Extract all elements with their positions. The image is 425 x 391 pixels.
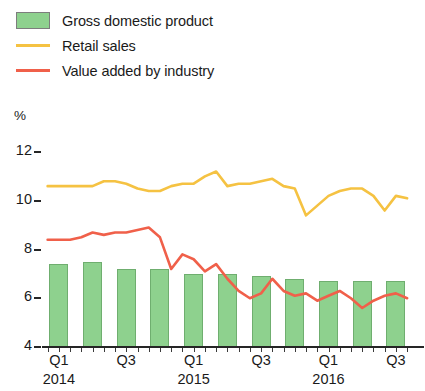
x-axis-year-label: 2014 [29, 371, 89, 387]
x-axis-tick-label: Q1 [304, 352, 354, 368]
x-axis-tick-label: Q3 [371, 352, 421, 368]
x-axis-tick-mark [362, 348, 363, 352]
x-axis-tick-mark [295, 348, 296, 352]
x-axis-tick-label: Q3 [236, 352, 286, 368]
x-axis-year-label: 2016 [299, 371, 359, 387]
x-axis-line [42, 346, 424, 348]
x-axis-tick-label: Q1 [34, 352, 84, 368]
x-axis-tick-mark [93, 348, 94, 352]
x-axis-year-label: 2015 [164, 371, 224, 387]
line-value-added [48, 228, 408, 308]
line-series-layer [0, 0, 425, 348]
x-axis-tick-label: Q3 [101, 352, 151, 368]
line-retail-sales [48, 172, 408, 216]
x-axis-tick-label: Q1 [169, 352, 219, 368]
x-axis-tick-mark [227, 348, 228, 352]
x-axis-tick-mark [160, 348, 161, 352]
chart-container: Gross domestic product Retail sales Valu… [0, 0, 425, 391]
